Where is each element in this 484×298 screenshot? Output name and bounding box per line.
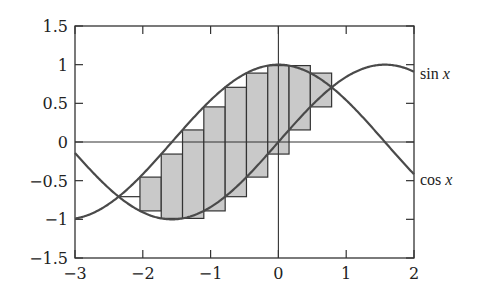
riemann-bar	[161, 154, 182, 218]
curve-labels: sin x cos x	[420, 65, 452, 188]
x-tick-label: −2	[131, 264, 155, 283]
y-tick-label: 0	[58, 133, 68, 152]
chart-svg: −3−2−10121.510.50−0.5−1−1.5 sin x cos x	[0, 0, 484, 298]
riemann-bar	[140, 177, 161, 211]
y-tick-label: −1.5	[29, 249, 68, 268]
riemann-bar	[183, 130, 204, 218]
x-tick-label: 0	[273, 264, 283, 283]
x-tick-label: −1	[199, 264, 223, 283]
axes-frame	[75, 26, 414, 258]
sin-curve-label: sin x	[420, 65, 450, 82]
y-tick-label: −1	[44, 210, 68, 229]
y-tick-label: 1	[58, 56, 68, 75]
riemann-bar	[204, 107, 225, 211]
cos-curve-label: cos x	[420, 171, 452, 188]
x-tick-label: 1	[341, 264, 351, 283]
riemann-bar	[246, 73, 267, 177]
y-tick-label: −0.5	[29, 172, 68, 191]
riemann-bar	[289, 66, 310, 130]
x-tick-label: 2	[409, 264, 419, 283]
y-tick-label: 1.5	[43, 17, 68, 36]
y-tick-label: 0.5	[43, 94, 68, 113]
